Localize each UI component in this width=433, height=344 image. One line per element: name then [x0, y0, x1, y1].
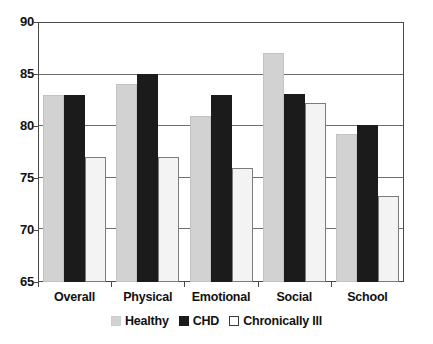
- bar[interactable]: [336, 134, 357, 282]
- x-axis-tick-label: Social: [276, 290, 312, 310]
- bar[interactable]: [305, 103, 326, 282]
- bar[interactable]: [43, 95, 64, 282]
- x-axis-tick-label: School: [347, 290, 387, 310]
- x-axis-tick-label: Emotional: [192, 290, 251, 310]
- x-axis-tick-mark: [331, 282, 332, 287]
- bar[interactable]: [158, 157, 179, 282]
- x-axis-group: Overall: [38, 282, 111, 310]
- x-axis-tick-label: Physical: [123, 290, 172, 310]
- legend-swatch-icon: [229, 316, 239, 326]
- bars-layer: [38, 22, 404, 282]
- x-axis-group: School: [331, 282, 404, 310]
- x-axis-tick-mark: [111, 282, 112, 287]
- legend-item[interactable]: Healthy: [111, 314, 169, 328]
- bar-group: [184, 22, 257, 282]
- x-axis-tick-mark: [184, 282, 185, 287]
- x-axis-group: Social: [258, 282, 331, 310]
- chart-legend: HealthyCHDChronically Ill: [0, 314, 433, 328]
- legend-item[interactable]: CHD: [179, 314, 219, 328]
- legend-swatch-icon: [111, 316, 121, 326]
- legend-swatch-icon: [179, 316, 189, 326]
- legend-label: CHD: [193, 314, 219, 328]
- bar-chart: 657075808590 OverallPhysicalEmotionalSoc…: [0, 0, 433, 344]
- y-axis: 657075808590: [0, 22, 38, 282]
- bar[interactable]: [85, 157, 106, 282]
- bar[interactable]: [64, 95, 85, 282]
- bar[interactable]: [116, 84, 137, 282]
- bar[interactable]: [211, 95, 232, 282]
- legend-label: Healthy: [125, 314, 169, 328]
- x-axis-group: Physical: [111, 282, 184, 310]
- bar[interactable]: [190, 116, 211, 282]
- bar-group: [331, 22, 404, 282]
- bar-group: [258, 22, 331, 282]
- bar[interactable]: [357, 125, 378, 282]
- x-axis: OverallPhysicalEmotionalSocialSchool: [38, 282, 404, 310]
- bar[interactable]: [263, 53, 284, 282]
- bar[interactable]: [232, 168, 253, 282]
- bar-group: [111, 22, 184, 282]
- legend-label: Chronically Ill: [243, 314, 322, 328]
- x-axis-tick-mark: [38, 282, 39, 287]
- x-axis-tick-label: Overall: [54, 290, 95, 310]
- x-axis-tick-mark: [258, 282, 259, 287]
- x-axis-group: Emotional: [184, 282, 257, 310]
- bar[interactable]: [137, 74, 158, 282]
- bar[interactable]: [284, 94, 305, 282]
- bar[interactable]: [378, 196, 399, 282]
- legend-item[interactable]: Chronically Ill: [229, 314, 322, 328]
- bar-group: [38, 22, 111, 282]
